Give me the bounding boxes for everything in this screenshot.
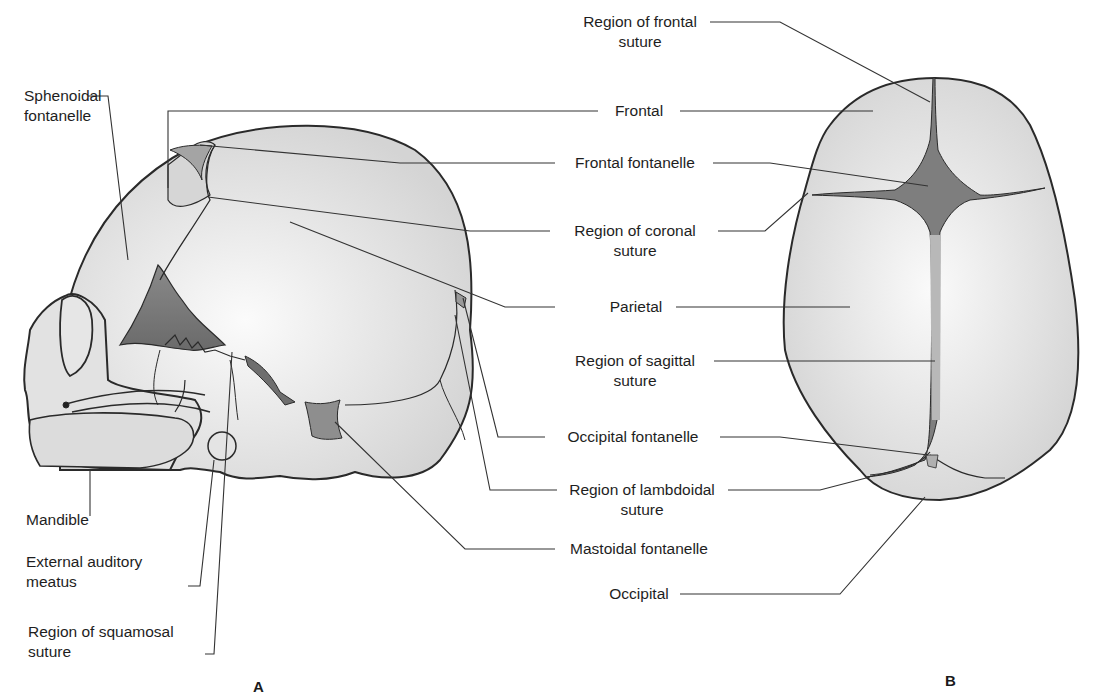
lateral-skull [24, 126, 473, 480]
label-external-auditory-meatus: External auditory meatus [26, 552, 142, 592]
label-line-2: suture [555, 371, 715, 391]
label-line-2: suture [556, 500, 728, 520]
label-line-1: Region of frontal [575, 12, 705, 32]
label-sphenoidal-fontanelle: Sphenoidal fontanelle [24, 86, 102, 126]
label-line-2: fontanelle [24, 106, 102, 126]
label-line-2: suture [28, 642, 174, 662]
panel-label-a: A [253, 678, 264, 695]
label-line-1: Frontal fontanelle [560, 153, 710, 173]
label-frontal-suture: Region of frontal suture [575, 12, 705, 52]
label-parietal: Parietal [600, 297, 672, 317]
label-line-1: Mastoidal fontanelle [557, 539, 721, 559]
label-frontal: Frontal [600, 101, 678, 121]
skull-illustrations [0, 0, 1117, 699]
label-line-2: suture [555, 241, 715, 261]
label-sagittal-suture: Region of sagittal suture [555, 351, 715, 391]
panel-label-b: B [945, 672, 956, 689]
label-line-1: Occipital [600, 584, 678, 604]
label-line-1: External auditory [26, 552, 142, 572]
label-line-1: Parietal [600, 297, 672, 317]
label-line-1: Occipital fontanelle [548, 427, 718, 447]
label-line-2: suture [575, 32, 705, 52]
label-mastoidal-fontanelle: Mastoidal fontanelle [557, 539, 721, 559]
label-line-1: Region of sagittal [555, 351, 715, 371]
label-line-1: Sphenoidal [24, 86, 102, 106]
label-frontal-fontanelle: Frontal fontanelle [560, 153, 710, 173]
label-line-1: Region of coronal [555, 221, 715, 241]
label-coronal-suture: Region of coronal suture [555, 221, 715, 261]
label-mandible: Mandible [26, 510, 89, 530]
label-occipital: Occipital [600, 584, 678, 604]
superior-skull [784, 78, 1079, 500]
label-lambdoidal-suture: Region of lambdoidal suture [556, 480, 728, 520]
label-line-2: meatus [26, 572, 142, 592]
label-occipital-fontanelle: Occipital fontanelle [548, 427, 718, 447]
label-line-1: Region of squamosal [28, 622, 174, 642]
label-line-1: Mandible [26, 510, 89, 530]
label-squamosal-suture: Region of squamosal suture [28, 622, 174, 662]
label-line-1: Region of lambdoidal [556, 480, 728, 500]
label-line-1: Frontal [600, 101, 678, 121]
